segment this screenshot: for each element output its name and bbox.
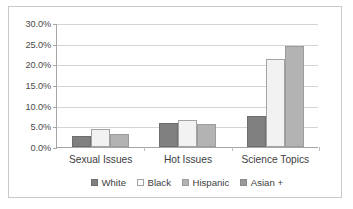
bar-hispanic[interactable]	[197, 124, 216, 147]
legend-swatch-black-icon	[137, 179, 144, 186]
x-axis-category-label: Science Topics	[241, 154, 309, 165]
legend-label: Hispanic	[192, 177, 229, 188]
y-axis-tick-label: 25.0%	[25, 40, 51, 50]
x-tick-mark	[232, 147, 233, 151]
y-axis-tick-label: 30.0%	[25, 19, 51, 29]
y-axis-tick-label: 10.0%	[25, 102, 51, 112]
y-axis-tick-label: 5.0%	[30, 122, 51, 132]
bar-black[interactable]	[91, 129, 110, 147]
chart-border: 0.0%5.0%10.0%15.0%20.0%25.0%30.0% Sexual…	[8, 6, 342, 198]
chart-legend: WhiteBlackHispanicAsian +	[56, 177, 318, 188]
legend-swatch-white-icon	[91, 179, 98, 186]
bar-hispanic[interactable]	[285, 46, 304, 147]
bar-white[interactable]	[159, 123, 178, 147]
y-tick-mark	[53, 148, 57, 149]
legend-label: White	[101, 177, 126, 188]
bar-group: Sexual Issues	[57, 24, 144, 147]
legend-swatch-asian-icon	[240, 179, 247, 186]
legend-entry-hispanic[interactable]: Hispanic	[182, 177, 229, 188]
legend-entry-white[interactable]: White	[91, 177, 126, 188]
legend-entry-asian[interactable]: Asian +	[240, 177, 283, 188]
bar-white[interactable]	[247, 116, 266, 147]
bar-hispanic[interactable]	[110, 134, 129, 147]
x-axis-category-label: Hot Issues	[164, 154, 212, 165]
bar-white[interactable]	[72, 136, 91, 147]
bar-group: Hot Issues	[144, 24, 231, 147]
legend-label: Asian +	[251, 177, 283, 188]
y-axis-tick-label: 0.0%	[30, 143, 51, 153]
y-axis-tick-label: 15.0%	[25, 81, 51, 91]
bar-black[interactable]	[178, 120, 197, 147]
bar-black[interactable]	[266, 59, 285, 147]
x-tick-mark	[144, 147, 145, 151]
legend-entry-black[interactable]: Black	[137, 177, 171, 188]
bar-group: Science Topics	[232, 24, 319, 147]
y-axis-tick-label: 20.0%	[25, 60, 51, 70]
plot-area: 0.0%5.0%10.0%15.0%20.0%25.0%30.0% Sexual…	[56, 24, 318, 148]
x-tick-mark	[319, 147, 320, 151]
legend-label: Black	[147, 177, 170, 188]
chart-figure: 0.0%5.0%10.0%15.0%20.0%25.0%30.0% Sexual…	[0, 0, 353, 209]
legend-swatch-hispanic-icon	[182, 179, 189, 186]
x-axis-category-label: Sexual Issues	[69, 154, 132, 165]
